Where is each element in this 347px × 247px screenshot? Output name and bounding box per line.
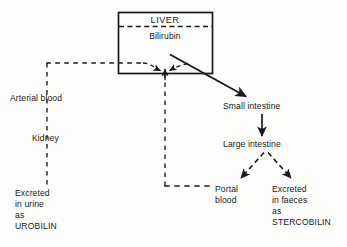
liver-inflow-right-arrow xyxy=(170,64,189,71)
faeces-excretion-line3: as xyxy=(272,206,281,216)
large-intestine-label: Large intestine xyxy=(223,139,281,149)
large-intestine-to-faeces-arrow xyxy=(268,153,291,179)
urine-excretion-line2: in urine xyxy=(15,199,44,209)
small-intestine-label: Small intestine xyxy=(223,101,280,111)
urine-excretion-line1: Excreted xyxy=(15,188,50,198)
stercobilin-label: STERCOBILIN xyxy=(272,217,331,227)
kidney-label: Kidney xyxy=(32,133,59,143)
portal-blood-line2: blood xyxy=(215,195,237,205)
bilirubin-label: Bilirubin xyxy=(118,31,212,41)
urobilin-label: UROBILIN xyxy=(15,221,57,231)
urine-excretion-line3: as xyxy=(15,210,24,220)
arterial-blood-label: Arterial blood xyxy=(10,93,62,103)
faeces-excretion-line1: Excreted xyxy=(272,184,307,194)
liver-title-label: LIVER xyxy=(118,15,212,25)
diagram-canvas: LIVER Bilirubin Arterial blood Kidney Ex… xyxy=(0,0,347,247)
large-intestine-to-portal-blood-arrow xyxy=(241,153,264,179)
faeces-excretion-line2: in faeces xyxy=(272,195,307,205)
liver-to-small-intestine-arrow xyxy=(170,55,246,97)
portal-blood-line1: Portal xyxy=(215,184,238,194)
arterial-blood-to-liver-arrow xyxy=(143,63,161,71)
